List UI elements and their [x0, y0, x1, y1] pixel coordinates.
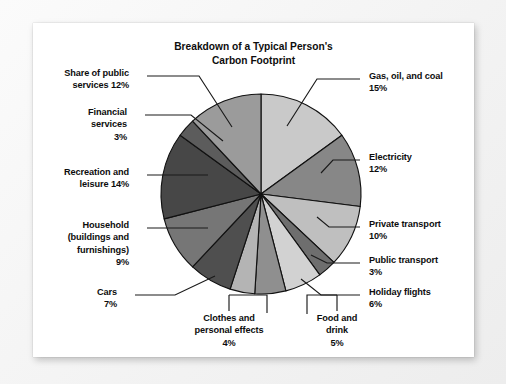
label-recreation-and-leisure: Recreation and leisure 14% — [29, 166, 129, 191]
label-electricity: Electricity 12% — [369, 151, 469, 176]
label-private-transport: Private transport 10% — [369, 218, 474, 243]
leader-line-clothes-2 — [229, 295, 267, 313]
label-gas-oil-and-coal: Gas, oil, and coal 15% — [369, 70, 474, 95]
leader-line-cars — [135, 276, 215, 295]
label-financial-services: Financial services 3% — [47, 106, 127, 143]
pie-slice-group — [161, 94, 361, 294]
label-share-of-public-services: Share of public services 12% — [33, 67, 129, 92]
label-household: Household (buildings and furnishings) 9% — [29, 219, 129, 269]
label-public-transport: Public transport 3% — [369, 254, 474, 279]
label-food-and-drink: Food and drink 5% — [299, 312, 375, 349]
label-cars: Cars 7% — [55, 286, 117, 311]
label-clothes: Clothes and personal effects 4% — [162, 312, 296, 349]
label-holiday-flights: Holiday flights 6% — [369, 286, 469, 311]
chart-card: Breakdown of a Typical Person's Carbon F… — [33, 23, 474, 357]
